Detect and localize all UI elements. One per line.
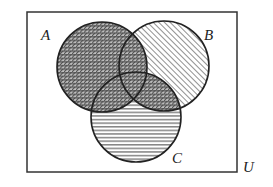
label-universe: U <box>243 159 255 175</box>
label-c: C <box>172 150 183 166</box>
label-b: B <box>204 27 213 43</box>
venn-diagram: A B C U <box>0 0 273 187</box>
label-a: A <box>40 27 51 43</box>
